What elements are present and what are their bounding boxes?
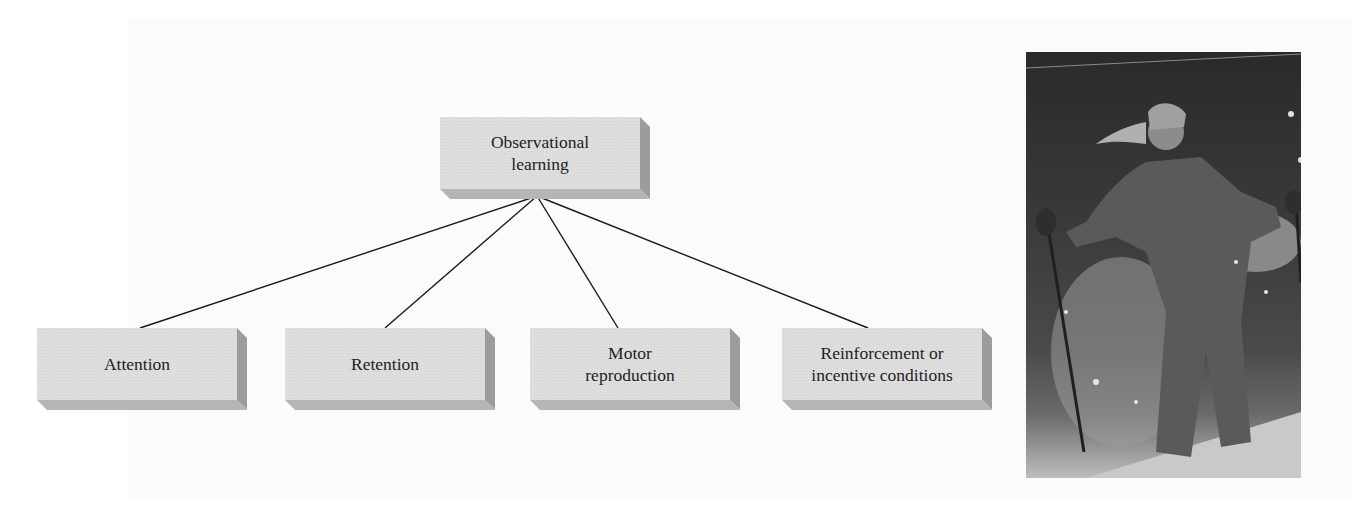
- node-attention: Attention: [37, 328, 247, 410]
- connector-reinforcement: [537, 196, 868, 328]
- node-side-shadow: [640, 117, 650, 199]
- node-bottom-shadow: [782, 400, 992, 410]
- node-side-shadow: [982, 328, 992, 410]
- node-side-shadow: [237, 328, 247, 410]
- node-motor-reproduction: Motor reproduction: [530, 328, 740, 410]
- node-label: Motor reproduction: [585, 342, 674, 386]
- connector-motor-reproduction: [537, 196, 618, 328]
- skier-photo: [1026, 52, 1301, 478]
- node-label: Retention: [351, 353, 419, 375]
- connector-retention: [385, 196, 537, 328]
- node-reinforcement-incentive: Reinforcement or incentive conditions: [782, 328, 992, 410]
- node-face: Motor reproduction: [530, 328, 730, 400]
- node-side-shadow: [730, 328, 740, 410]
- node-bottom-shadow: [37, 400, 247, 410]
- node-label: Reinforcement or incentive conditions: [811, 342, 952, 386]
- node-face: Observational learning: [440, 117, 640, 189]
- node-face: Reinforcement or incentive conditions: [782, 328, 982, 400]
- node-face: Attention: [37, 328, 237, 400]
- skier-illustration: [1026, 52, 1301, 478]
- node-bottom-shadow: [530, 400, 740, 410]
- node-retention: Retention: [285, 328, 495, 410]
- node-side-shadow: [485, 328, 495, 410]
- node-bottom-shadow: [440, 189, 650, 199]
- node-face: Retention: [285, 328, 485, 400]
- node-observational-learning: Observational learning: [440, 117, 650, 199]
- node-label: Attention: [104, 353, 170, 375]
- connector-attention: [140, 196, 537, 328]
- node-bottom-shadow: [285, 400, 495, 410]
- node-label: Observational learning: [491, 131, 589, 175]
